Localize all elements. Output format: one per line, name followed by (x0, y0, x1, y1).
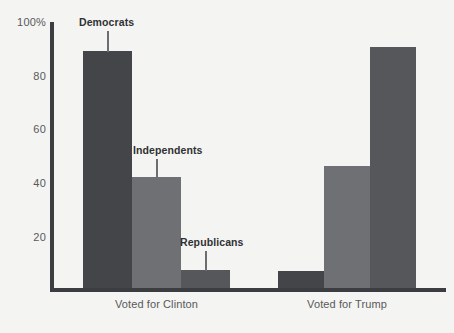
bar-clinton-independents (132, 177, 181, 288)
bar-clinton-democrats (83, 51, 132, 288)
y-tick-60: 60 (2, 123, 46, 135)
y-tick-80: 80 (2, 70, 46, 82)
y-tick-100: 100% (2, 16, 46, 28)
y-tick-40: 40 (2, 177, 46, 189)
bar-clinton-republicans (181, 270, 230, 288)
bar-trump-republicans (370, 47, 416, 288)
x-label-voted-for-clinton: Voted for Clinton (83, 298, 230, 310)
callout-label-republicans: Republicans (180, 236, 244, 248)
y-axis-line (50, 22, 54, 290)
x-axis-line (50, 288, 446, 292)
bar-trump-democrats (278, 271, 324, 288)
plot-area: 100% 80 60 40 20 Democrats Independents … (0, 0, 454, 333)
y-tick-20: 20 (2, 231, 46, 243)
callout-label-independents: Independents (133, 144, 202, 156)
bar-chart: 100% 80 60 40 20 Democrats Independents … (0, 0, 454, 333)
y-axis-tick-labels: 100% 80 60 40 20 (0, 0, 46, 333)
x-label-voted-for-trump: Voted for Trump (278, 298, 416, 310)
bar-trump-independents (324, 166, 370, 288)
callout-leader-democrats (107, 31, 109, 52)
callout-leader-republicans (205, 251, 207, 271)
callout-leader-independents (156, 159, 158, 178)
callout-label-democrats: Democrats (79, 16, 134, 28)
